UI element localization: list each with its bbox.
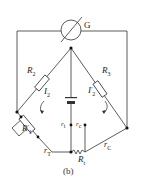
node-left-2 [20,116,23,119]
rt-small-label: rt [61,121,65,129]
r3-label: R3 [102,66,111,77]
node-rt [70,124,73,127]
rT-label: rT [44,147,51,157]
r1-label: R′1 [22,124,32,135]
node-left [15,110,18,113]
galvanometer-needle [61,17,82,42]
node-r1-end [37,136,40,139]
battery-short-plate [67,101,75,104]
node-rc [84,124,87,127]
i2-prime-label: I′2 [88,86,95,97]
figure-caption: (b) [63,166,74,176]
node-bottom [69,150,72,153]
i2-label: I2 [44,87,50,98]
battery-long-plate [65,97,77,98]
circuit-diagram [0,0,141,181]
rC-label: rC [104,141,111,151]
node-top [69,46,72,49]
r2-label: R2 [27,66,36,77]
node-right [125,126,128,129]
rc-small-label: rc [76,121,81,129]
Rt-label: Rt [78,155,85,166]
galvanometer-label: G [84,21,91,30]
